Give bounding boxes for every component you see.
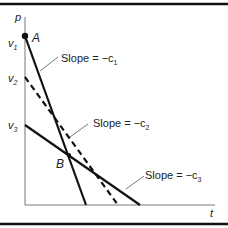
slope-c1-label: Slope = −c1 bbox=[61, 52, 118, 66]
point-a-marker bbox=[22, 33, 28, 39]
slope-c3-label: Slope = −c3 bbox=[145, 169, 202, 183]
line-c2-dashed bbox=[25, 77, 118, 205]
point-b-label: B bbox=[56, 157, 64, 171]
v2-label: v2 bbox=[8, 72, 18, 86]
leader-c1 bbox=[40, 57, 58, 71]
leader-c3 bbox=[126, 176, 144, 189]
slope-c2-label: Slope = −c2 bbox=[93, 117, 150, 131]
point-b-marker bbox=[67, 153, 71, 157]
point-a-label: A bbox=[31, 31, 40, 45]
y-axis-label: p bbox=[14, 11, 21, 23]
diagram: p t v1 v2 v3 A B Slope = −c1 Slope = −c2… bbox=[0, 0, 228, 228]
leader-c2 bbox=[70, 124, 88, 137]
v3-label: v3 bbox=[8, 119, 18, 133]
x-axis-label: t bbox=[210, 207, 214, 219]
v1-label: v1 bbox=[8, 37, 18, 51]
